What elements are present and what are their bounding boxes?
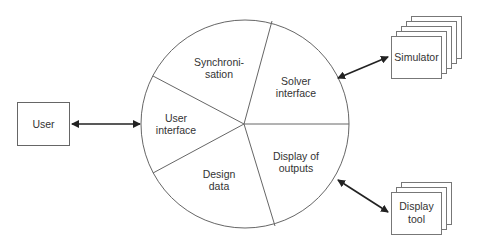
display-tool-bidirectional-arrow [338, 180, 388, 212]
svg-text:data: data [209, 180, 230, 192]
svg-text:Display: Display [399, 200, 434, 212]
svg-text:sation: sation [205, 68, 233, 80]
svg-text:Display of: Display of [273, 150, 319, 162]
simulator-label: Simulator [394, 51, 439, 63]
system-architecture-diagram: User Synchroni- sation Solver interface … [0, 0, 478, 245]
user-box: User [18, 103, 70, 146]
svg-text:User: User [165, 112, 188, 124]
svg-text:interface: interface [276, 87, 316, 99]
svg-text:outputs: outputs [279, 162, 313, 174]
display-tool-stack: Display tool [392, 183, 452, 235]
svg-text:interface: interface [156, 124, 196, 136]
segment-display-of-outputs: Display of outputs [273, 150, 319, 174]
user-label: User [32, 118, 55, 130]
svg-text:Solver: Solver [281, 75, 311, 87]
svg-text:Design: Design [203, 168, 236, 180]
svg-text:tool: tool [408, 213, 425, 225]
svg-text:Synchroni-: Synchroni- [194, 56, 245, 68]
simulator-bidirectional-arrow [338, 57, 388, 78]
simulator-stack: Simulator [392, 17, 462, 79]
segment-solver-interface: Solver interface [276, 75, 316, 99]
